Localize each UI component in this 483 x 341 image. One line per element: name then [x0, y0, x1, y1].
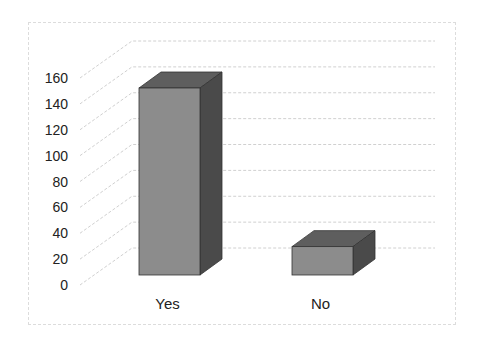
- bar-yes: [139, 72, 222, 275]
- gridline: [80, 93, 435, 130]
- x-category-label: No: [311, 295, 330, 312]
- gridline: [80, 248, 435, 285]
- y-tick-label: 80: [52, 174, 68, 190]
- x-axis-category-labels: YesNo: [155, 295, 330, 312]
- gridline: [80, 222, 435, 259]
- y-tick-label: 40: [52, 225, 68, 241]
- y-tick-label: 140: [45, 96, 69, 112]
- y-tick-label: 20: [52, 251, 68, 267]
- gridlines: [80, 41, 435, 285]
- gridline: [80, 119, 435, 156]
- bar-chart-3d: 020406080100120140160 YesNo: [0, 0, 483, 341]
- bars: [139, 72, 375, 275]
- y-tick-label: 120: [45, 122, 69, 138]
- gridline: [80, 67, 435, 104]
- y-tick-label: 160: [45, 70, 69, 86]
- bar-no: [292, 231, 375, 275]
- y-tick-label: 60: [52, 199, 68, 215]
- y-tick-label: 100: [45, 148, 69, 164]
- gridline: [80, 196, 435, 233]
- gridline: [80, 41, 435, 78]
- x-category-label: Yes: [155, 295, 179, 312]
- gridline: [80, 145, 435, 182]
- y-axis-tick-labels: 020406080100120140160: [45, 70, 69, 293]
- gridline: [80, 170, 435, 207]
- y-tick-label: 0: [60, 277, 68, 293]
